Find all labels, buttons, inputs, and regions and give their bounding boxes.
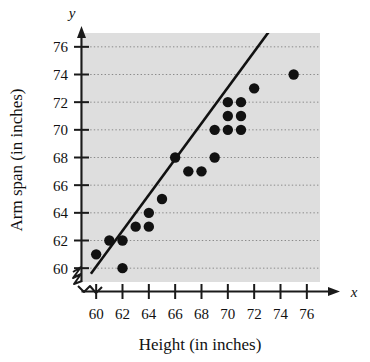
data-point <box>223 125 233 135</box>
y-axis-title: Arm span (in inches) <box>7 88 26 231</box>
data-point <box>249 83 259 93</box>
y-tick-label: 72 <box>53 95 68 111</box>
x-tick-label: 68 <box>194 306 209 322</box>
x-tick-label: 70 <box>220 306 235 322</box>
data-point <box>91 249 101 259</box>
y-tick-label: 62 <box>53 233 68 249</box>
data-point <box>183 166 193 176</box>
data-point <box>209 152 219 162</box>
x-axis-tick-labels: 606264666870727476 <box>89 306 315 322</box>
data-point <box>144 208 154 218</box>
y-axis-tick-labels: 606264666870727476 <box>53 39 69 276</box>
x-tick-label: 72 <box>247 306 262 322</box>
data-point <box>130 221 140 231</box>
data-point <box>236 97 246 107</box>
data-point <box>117 235 127 245</box>
data-point <box>236 125 246 135</box>
x-tick-label: 74 <box>273 306 289 322</box>
y-axis-variable-symbol: y <box>67 5 76 21</box>
scatter-plot-svg: 606264666870727476 606264666870727476 y … <box>0 0 370 362</box>
scatter-plot-figure: 606264666870727476 606264666870727476 y … <box>0 0 370 362</box>
data-point <box>104 235 114 245</box>
y-tick-label: 66 <box>53 178 69 194</box>
data-point <box>196 166 206 176</box>
data-point <box>209 125 219 135</box>
x-tick-label: 60 <box>89 306 104 322</box>
data-point <box>288 69 298 79</box>
y-tick-label: 70 <box>53 122 68 138</box>
data-point <box>223 111 233 121</box>
data-point <box>236 111 246 121</box>
y-tick-label: 74 <box>53 67 69 83</box>
y-tick-label: 76 <box>53 39 69 55</box>
x-tick-label: 66 <box>168 306 184 322</box>
x-tick-label: 62 <box>115 306 130 322</box>
data-point <box>223 97 233 107</box>
data-point <box>117 263 127 273</box>
y-tick-label: 68 <box>53 150 68 166</box>
y-tick-label: 64 <box>53 205 69 221</box>
data-point <box>157 194 167 204</box>
y-tick-label: 60 <box>53 261 68 277</box>
data-point <box>170 152 180 162</box>
x-tick-label: 76 <box>299 306 315 322</box>
x-axis-variable-symbol: x <box>350 284 358 300</box>
data-point <box>144 221 154 231</box>
x-tick-label: 64 <box>141 306 157 322</box>
plot-area-background <box>83 33 320 282</box>
x-axis-title: Height (in inches) <box>139 335 262 354</box>
